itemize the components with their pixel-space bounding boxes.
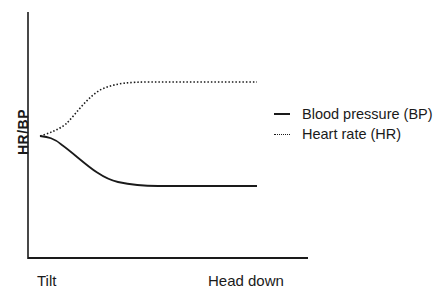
x-tick-tilt: Tilt [37, 272, 56, 289]
x-tick-head-down: Head down [208, 272, 284, 289]
legend: Blood pressure (BP) Heart rate (HR) [274, 104, 433, 144]
hr-line [40, 82, 257, 136]
dotted-line-swatch-icon [274, 134, 290, 135]
chart-canvas [0, 0, 437, 303]
y-axis-label: HR/BP [15, 107, 31, 157]
solid-line-swatch-icon [274, 113, 290, 115]
legend-label-hr: Heart rate (HR) [302, 124, 401, 144]
bp-line [40, 136, 257, 186]
legend-item-bp: Blood pressure (BP) [274, 104, 433, 124]
legend-label-bp: Blood pressure (BP) [302, 104, 433, 124]
legend-item-hr: Heart rate (HR) [274, 124, 433, 144]
